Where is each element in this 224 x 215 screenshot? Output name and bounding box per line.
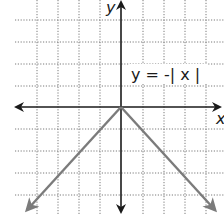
equation-label: y = -| x |	[131, 65, 200, 84]
right-ray	[121, 107, 215, 210]
y-axis-label: y	[105, 0, 116, 17]
x-axis-label: x	[215, 109, 224, 128]
coordinate-plane: y = -| x | y x	[0, 0, 224, 215]
